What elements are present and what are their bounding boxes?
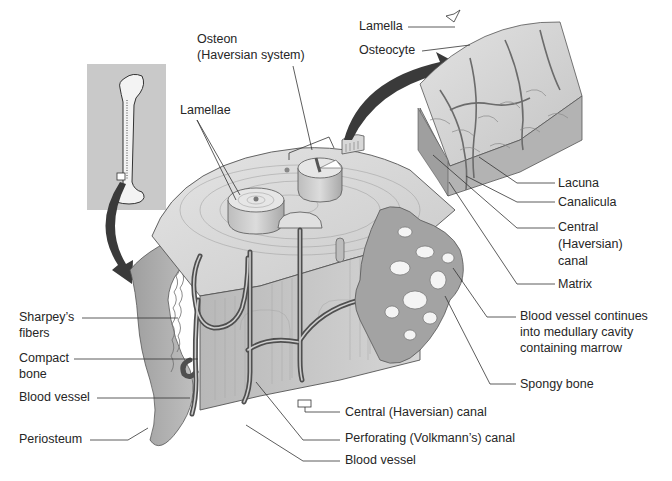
label-sharpeys-fibers-line1: Sharpey’s [19, 310, 74, 325]
label-blood-vessel-continues-line1: Blood vessel continues [520, 309, 648, 324]
label-central-haversian-canal: Central (Haversian) canal [345, 405, 487, 420]
label-osteon-haversian-system: (Haversian system) [197, 48, 305, 63]
label-matrix: Matrix [558, 277, 592, 292]
label-compact-bone-line2: bone [19, 367, 47, 382]
label-lamella: Lamella [359, 19, 403, 34]
lamella-detail-block [418, 10, 582, 196]
femur-inset [87, 64, 166, 210]
label-blood-vessel-continues-line3: containing marrow [520, 341, 622, 356]
label-compact-bone-line1: Compact [19, 351, 69, 366]
label-canalicula: Canalicula [558, 195, 616, 210]
label-blood-vessel-left: Blood vessel [19, 390, 90, 405]
spongy-bone [355, 207, 463, 364]
label-periosteum: Periosteum [19, 432, 82, 447]
label-lamellae: Lamellae [180, 103, 231, 118]
label-sharpeys-fibers-line2: fibers [19, 326, 50, 341]
label-osteocyte: Osteocyte [359, 43, 415, 58]
label-spongy-bone: Spongy bone [520, 377, 594, 392]
label-blood-vessel-bottom: Blood vessel [345, 453, 416, 468]
label-central-canal-line1: Central [558, 220, 598, 235]
label-lacuna: Lacuna [558, 176, 599, 191]
label-blood-vessel-continues-line2: into medullary cavity [520, 325, 633, 340]
label-osteon: Osteon [197, 32, 237, 47]
label-perforating-volkmanns-canal: Perforating (Volkmann’s) canal [345, 431, 515, 446]
compact-bone-diagram: Osteon (Haversian system) Lamellae Lamel… [0, 0, 672, 481]
label-central-canal-line2: (Haversian) [558, 237, 623, 252]
label-central-canal-line3: canal [558, 254, 588, 269]
